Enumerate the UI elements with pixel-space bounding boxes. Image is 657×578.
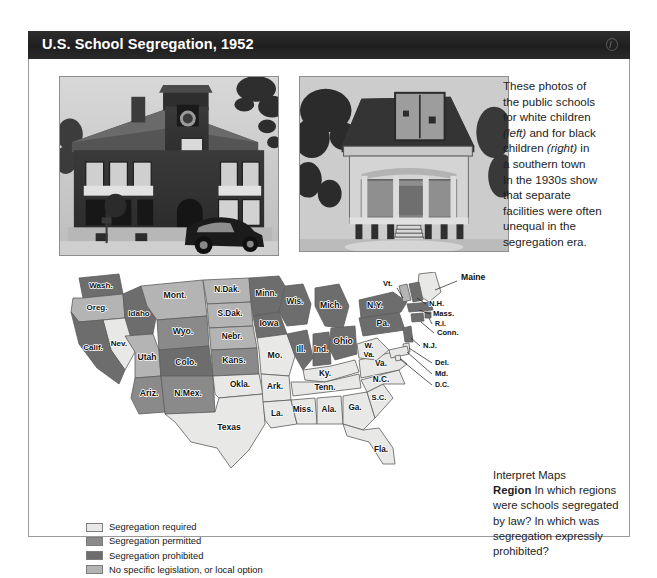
- map-label-mo: Mo.: [268, 350, 283, 360]
- map-label-wyo: Wyo.: [173, 326, 193, 336]
- map-label-nev: Nev.: [111, 339, 127, 348]
- map-label-vt: Vt.: [383, 279, 393, 288]
- legend-item-prohibited: Segregation prohibited: [86, 549, 346, 562]
- map-legend: Segregation required Segregation permitt…: [86, 521, 346, 578]
- map-label-sc: S.C.: [372, 393, 387, 402]
- caption-l6: a southern town: [503, 157, 586, 170]
- map-state-nj[interactable]: [403, 326, 413, 342]
- map-label-ind: Ind.: [314, 345, 329, 354]
- map-label-nmex: N.Mex.: [174, 388, 202, 398]
- map-state-dc[interactable]: [395, 355, 401, 361]
- map-label-fla: Fla.: [374, 445, 388, 454]
- map-label-ark: Ark.: [267, 382, 283, 391]
- legend-item-permitted: Segregation permitted: [86, 535, 346, 548]
- map-label-mass: Mass.: [433, 309, 454, 318]
- caption-l10: unequal in the: [503, 219, 576, 232]
- map-label-va: Va.: [375, 359, 387, 368]
- interpret-maps-block: Interpret Maps Region In which regions w…: [493, 468, 633, 559]
- figure-frame: U.S. School Segregation, 1952: [28, 31, 630, 537]
- interpret-heading: Interpret Maps: [493, 468, 633, 483]
- map-label-ky: Ky.: [319, 369, 331, 378]
- map-label-ndak: N.Dak.: [214, 285, 239, 294]
- legend-swatch-none: [86, 565, 103, 574]
- map-label-ri: R.I.: [435, 320, 446, 327]
- map-label-miss: Miss.: [293, 405, 313, 414]
- map-label-mont: Mont.: [164, 290, 187, 300]
- caption-l2: the public schools: [503, 95, 595, 108]
- legend-label-permitted: Segregation permitted: [109, 536, 201, 546]
- map-label-kans: Kans.: [222, 355, 245, 365]
- legend-label-required: Segregation required: [109, 522, 197, 532]
- caption-l4: and for black: [526, 126, 596, 139]
- map-label-la: La.: [271, 409, 283, 418]
- leader-line-ri: [429, 318, 432, 324]
- map-label-wva: W.Va.: [364, 341, 375, 359]
- map-label-wash: Wash.: [89, 281, 112, 290]
- map-label-maine: Maine: [461, 272, 486, 282]
- map-label-wis: Wis.: [287, 297, 304, 306]
- map-label-del: Del.: [435, 358, 449, 367]
- map-label-sdak: S.Dak.: [217, 309, 242, 318]
- map-state-ri[interactable]: [425, 312, 431, 318]
- legend-item-none: No specific legislation, or local option: [86, 564, 346, 577]
- legend-label-prohibited: Segregation prohibited: [109, 551, 203, 561]
- photo-black-school: [299, 76, 509, 252]
- map-label-ny: N.Y.: [367, 300, 383, 310]
- map-label-idaho: Idaho: [128, 309, 149, 318]
- map-label-nc: N.C.: [373, 375, 389, 384]
- caption-l8: that separate: [503, 188, 571, 201]
- caption-l5a: children: [503, 141, 547, 154]
- caption-l7: In the 1930s show: [503, 173, 597, 186]
- map-label-ala: Ala.: [321, 405, 336, 414]
- map-label-utah: Utah: [137, 352, 156, 362]
- leader-line-md: [407, 352, 432, 374]
- map-label-calif: Calif.: [83, 343, 103, 352]
- legend-swatch-prohibited: [86, 551, 103, 560]
- photo-white-school: [59, 76, 279, 256]
- page-title: U.S. School Segregation, 1952: [42, 36, 254, 52]
- map-label-iowa: Iowa: [259, 318, 278, 328]
- caption-right-italic: (right): [547, 141, 577, 154]
- caption-l9: facilities were often: [503, 204, 602, 217]
- legend-swatch-permitted: [86, 537, 103, 546]
- map-label-okla: Okla.: [230, 380, 250, 389]
- segregation-map: Wash.Oreg.IdahoMont.Nev.UtahWyo.Colo.Cal…: [63, 272, 493, 502]
- map-label-pa: Pa.: [377, 318, 390, 328]
- legend-item-required: Segregation required: [86, 521, 346, 534]
- map-label-nj: N.J.: [423, 341, 437, 350]
- leader-line-dc: [400, 359, 432, 385]
- globe-icon: [606, 38, 618, 51]
- map-label-ga: Ga.: [348, 403, 361, 412]
- map-label-nh: N.H.: [429, 299, 444, 308]
- map-label-mich: Mich.: [320, 300, 342, 310]
- map-state-conn[interactable]: [411, 313, 424, 322]
- map-label-ill: Ill.: [296, 345, 305, 354]
- map-label-md: Md.: [435, 369, 448, 378]
- photo-caption: These photos of the public schools for w…: [503, 78, 625, 250]
- map-state-fla[interactable]: [343, 424, 395, 464]
- legend-swatch-required: [86, 523, 103, 532]
- figure-header-bar: U.S. School Segregation, 1952: [28, 31, 630, 59]
- map-label-minn: Minn.: [255, 289, 276, 298]
- legend-label-none: No specific legislation, or local option: [109, 565, 263, 575]
- map-label-colo: Colo.: [175, 357, 196, 367]
- map-label-ohio: Ohio: [333, 336, 353, 346]
- caption-left-italic: (left): [503, 126, 526, 139]
- map-label-ariz: Ariz.: [140, 388, 159, 398]
- caption-l1: These photos of: [503, 79, 586, 92]
- map-label-conn: Conn.: [437, 328, 459, 337]
- interpret-term: Region: [493, 484, 531, 496]
- caption-l11: segregation era.: [503, 235, 587, 248]
- map-label-nebr: Nebr.: [222, 332, 242, 341]
- map-label-tenn: Tenn.: [314, 383, 335, 392]
- leader-line-del: [409, 348, 432, 363]
- caption-l3: for white children: [503, 110, 591, 123]
- map-label-texas: Texas: [217, 422, 241, 432]
- caption-l5b: in: [577, 141, 589, 154]
- map-label-oreg: Oreg.: [87, 303, 108, 312]
- map-label-dc: D.C.: [435, 381, 449, 388]
